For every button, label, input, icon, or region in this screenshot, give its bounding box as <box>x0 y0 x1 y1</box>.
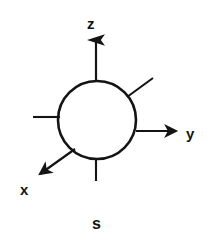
x-axis-label: x <box>20 182 28 197</box>
orbital-diagram-figure: z y x s <box>0 0 207 249</box>
y-axis-label: y <box>186 126 194 141</box>
z-axis-label: z <box>87 16 95 31</box>
orbital-type-label: s <box>92 216 101 232</box>
s-orbital-circle <box>58 81 136 159</box>
upper-right-stub-line <box>127 78 153 97</box>
x-axis-line <box>40 149 75 174</box>
orbital-diagram-canvas <box>0 0 207 249</box>
